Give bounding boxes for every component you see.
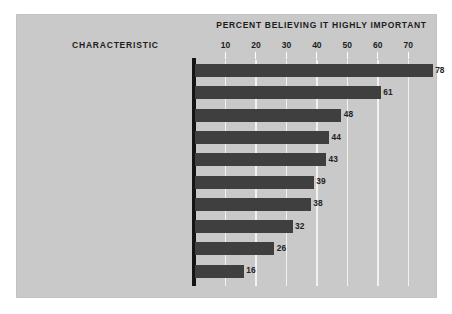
bar-value-label: 39: [316, 176, 325, 186]
chart-title: PERCENT BELIEVING IT HIGHLY IMPORTANT: [209, 20, 434, 30]
bar-row: Can be creative and original48: [195, 105, 437, 127]
bar: [195, 220, 293, 233]
x-tick-label-40: 40: [312, 40, 321, 50]
bar-value-label: 78: [435, 65, 444, 75]
bar-value-label: 48: [344, 109, 353, 119]
x-tick-label-60: 60: [373, 40, 382, 50]
bar: [195, 198, 311, 211]
x-tick-label-10: 10: [221, 40, 230, 50]
x-tick-mark-40: [316, 52, 317, 59]
bar-value-label: 16: [246, 265, 255, 275]
x-tick-mark-70: [408, 52, 409, 59]
x-tick-mark-10: [225, 52, 226, 59]
bar-value-label: 32: [295, 221, 304, 231]
bar-row: Can look forward to stable, secure futur…: [195, 83, 437, 105]
bar-row: Can be helpful to others43: [195, 150, 437, 172]
x-tick-mark-20: [255, 52, 256, 59]
bar-row: Has status and prestige26: [195, 239, 437, 261]
bar-value-label: 61: [383, 87, 392, 97]
bar: [195, 109, 341, 122]
bar-row: Can lead to adventure16: [195, 261, 437, 283]
plot-area: Opportunity to use special abilities78Ca…: [195, 60, 437, 286]
bar: [195, 242, 274, 255]
bar-row: Chance to earn a great deal of money39: [195, 172, 437, 194]
bar: [195, 265, 244, 278]
category-axis-label: CHARACTERISTIC: [72, 40, 159, 50]
chart-figure: PERCENT BELIEVING IT HIGHLY IMPORTANT CH…: [0, 0, 452, 314]
x-tick-mark-60: [377, 52, 378, 59]
bar-row: Can exercise leadership32: [195, 217, 437, 239]
x-tick-label-20: 20: [251, 40, 260, 50]
bar-value-label: 26: [277, 243, 286, 253]
x-tick-mark-50: [347, 52, 348, 59]
bar: [195, 86, 381, 99]
bar: [195, 176, 314, 189]
bar: [195, 153, 326, 166]
bar: [195, 64, 433, 77]
bar-value-label: 38: [313, 198, 322, 208]
bar: [195, 131, 329, 144]
x-tick-label-70: 70: [404, 40, 413, 50]
x-tick-mark-30: [286, 52, 287, 59]
bar-value-label: 44: [332, 132, 341, 142]
x-tick-label-30: 30: [282, 40, 291, 50]
bar-row: Can work with people rather than things4…: [195, 127, 437, 149]
x-tick-label-50: 50: [343, 40, 352, 50]
bar-row: Opportunity to use special abilities78: [195, 61, 437, 83]
bar-value-label: 43: [329, 154, 338, 164]
bar-row: Can be relatively free of supervision38: [195, 194, 437, 216]
